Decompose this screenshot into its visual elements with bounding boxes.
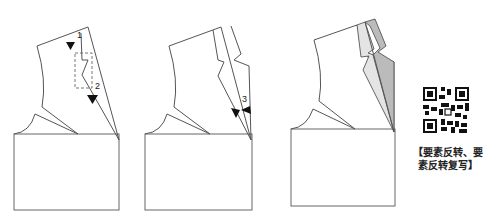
label-1: 1 [77, 30, 82, 40]
shoulder-line [313, 109, 355, 129]
shoulder-line-inner [174, 107, 210, 134]
neckline-curve [14, 114, 35, 134]
bodice-block [145, 134, 252, 210]
panel-2: 3 [145, 26, 252, 210]
lapel-reflection [231, 26, 251, 140]
caption-line-1: 【要素反转、要 [408, 146, 487, 159]
neckline-curve [291, 109, 313, 129]
qr-code-icon[interactable] [421, 85, 471, 135]
collar-outline [169, 27, 251, 140]
shoulder-line [35, 114, 78, 134]
label-3: 3 [242, 94, 247, 104]
panel-3 [291, 19, 395, 206]
pattern-diagram: 1 2 3 [0, 0, 487, 224]
shoulder-line-inner [319, 101, 355, 129]
qr-caption: 【要素反转、要 素反转复写】 [408, 146, 487, 172]
neckline-curve [145, 114, 167, 134]
collar-outline [37, 27, 119, 140]
shoulder-line-inner [42, 107, 78, 134]
bodice-block [14, 134, 119, 210]
shoulder-line [167, 114, 210, 134]
lapel-zigzag [213, 30, 251, 140]
bodice-block [291, 129, 395, 206]
triangle-marker-1 [66, 42, 75, 50]
panel-1: 1 2 [14, 27, 119, 210]
label-2: 2 [95, 81, 100, 91]
caption-line-2: 素反转复写】 [408, 159, 487, 172]
